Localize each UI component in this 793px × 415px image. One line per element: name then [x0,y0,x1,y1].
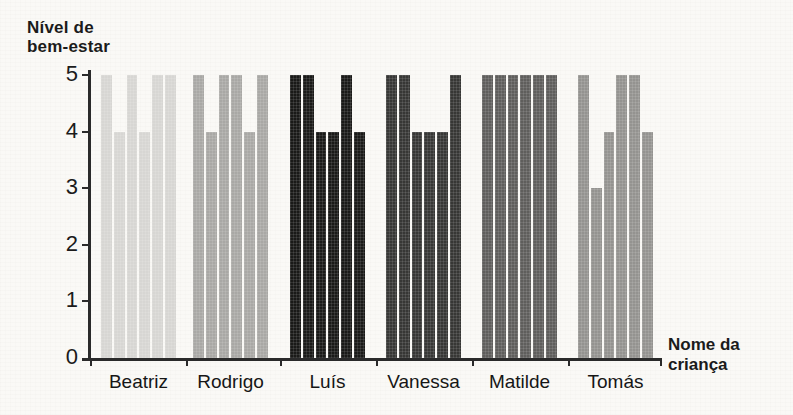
bar [165,75,176,358]
plot-area: 543210BeatrizRodrigoLuísVanessaMatildeTo… [90,75,662,358]
bar [508,75,519,358]
bar [578,75,589,358]
x-tick-0 [90,360,92,366]
bar [127,75,138,358]
y-axis-title-line1: Nível de [27,18,110,37]
bar [219,75,230,358]
bar [642,132,653,358]
bar [591,188,602,358]
bar [328,132,339,358]
y-tick-2 [82,244,89,246]
y-tick-label-1: 1 [48,287,78,313]
category-label-tomas: Tomás [588,371,644,393]
y-tick-label-0: 0 [48,344,78,370]
bar [139,132,150,358]
bar [206,132,217,358]
x-tick-4 [472,360,474,366]
y-tick-label-3: 3 [48,174,78,200]
bar-group-beatriz [101,75,176,358]
bar-group-tomas [578,75,653,358]
y-axis-line [88,70,91,358]
x-tick-3 [376,360,378,366]
bar-group-luis [290,75,365,358]
wellbeing-bar-chart: Nível de bem-estar 543210BeatrizRodrigoL… [0,0,793,415]
y-tick-5 [82,74,89,76]
bar [604,132,615,358]
bar [437,132,448,358]
category-label-beatriz: Beatriz [109,371,168,393]
bar-group-vanessa [386,75,461,358]
bar [152,75,163,358]
x-tick-2 [280,360,282,366]
bar [629,75,640,358]
bar [290,75,301,358]
y-tick-label-5: 5 [48,61,78,87]
y-axis-title-line2: bem-estar [27,37,110,56]
bar-group-matilde [482,75,557,358]
bar-group-rodrigo [193,75,268,358]
x-axis-title-line1: Nome da [668,335,740,355]
x-axis-title: Nome da criança [668,335,740,375]
bar [546,75,557,358]
category-label-vanessa: Vanessa [387,371,460,393]
bar [257,75,268,358]
bar [354,132,365,358]
bar [341,75,352,358]
bar [303,75,314,358]
y-tick-3 [82,187,89,189]
category-label-matilde: Matilde [489,371,550,393]
category-label-rodrigo: Rodrigo [197,371,264,393]
bar [520,75,531,358]
bar [101,75,112,358]
y-tick-1 [82,300,89,302]
x-tick-1 [186,360,188,366]
y-tick-4 [82,131,89,133]
x-tick-5 [568,360,570,366]
bar [495,75,506,358]
y-tick-label-2: 2 [48,231,78,257]
bar [114,132,125,358]
bar [412,132,423,358]
bar [482,75,493,358]
bar [231,75,242,358]
category-label-luis: Luís [310,371,346,393]
bar [450,75,461,358]
x-axis-line [82,358,662,361]
x-tick-6 [660,360,662,366]
bar [244,132,255,358]
bar [616,75,627,358]
x-axis-title-line2: criança [668,355,740,375]
bar [399,75,410,358]
bar [424,132,435,358]
bar [533,75,544,358]
bar [386,75,397,358]
y-axis-title: Nível de bem-estar [27,18,110,56]
bar [193,75,204,358]
y-tick-label-4: 4 [48,118,78,144]
bar [316,132,327,358]
